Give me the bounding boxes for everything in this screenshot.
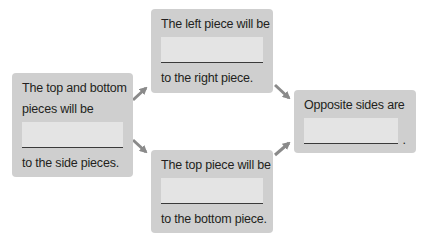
box-right: Opposite sides are . [294, 90, 416, 153]
box-left-line1: The top and bottom [22, 78, 123, 99]
arrow-left-to-top [133, 88, 146, 100]
box-left: The top and bottom pieces will be to the… [12, 73, 133, 177]
box-top-blank[interactable] [161, 37, 263, 63]
arrow-left-to-bottom [133, 140, 146, 152]
box-right-period: . [403, 133, 406, 147]
arrow-top-to-right [275, 85, 289, 98]
box-top: The left piece will be to the right piec… [151, 9, 273, 93]
box-right-blank[interactable]: . [304, 118, 398, 144]
box-bottom-blank[interactable] [161, 178, 263, 204]
box-left-line2: pieces will be [22, 99, 123, 120]
arrow-bottom-to-right [275, 143, 289, 155]
box-top-line2: to the right piece. [161, 68, 263, 89]
box-bottom-line1: The top piece will be [161, 155, 263, 176]
box-right-line1: Opposite sides are [304, 95, 406, 116]
box-bottom: The top piece will be to the bottom piec… [151, 150, 273, 233]
box-top-line1: The left piece will be [161, 14, 263, 35]
box-left-line3: to the side pieces. [22, 153, 123, 174]
box-bottom-line2: to the bottom piece. [161, 209, 263, 230]
box-left-blank[interactable] [22, 122, 123, 148]
